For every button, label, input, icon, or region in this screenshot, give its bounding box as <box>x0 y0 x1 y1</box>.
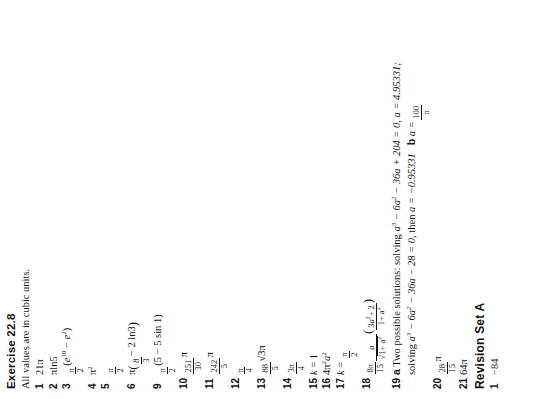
answer-number: 15 <box>308 375 320 389</box>
pi-symbol: π <box>204 352 215 357</box>
answer-body: π( 8 3 − 2 ln3) <box>126 9 150 375</box>
answer-body: 21π <box>34 9 45 375</box>
coefficient: 4 <box>321 370 332 375</box>
list-item: 18 8π 15 a √1+ a2 ( 3a2+ 2 1+ a2 ) <box>361 9 388 389</box>
answer-number: 19 <box>389 375 404 389</box>
list-item: 6 π( 8 3 − 2 ln3) <box>126 9 150 389</box>
close-paren: ) <box>360 299 375 303</box>
answer-number: 12 <box>230 375 242 389</box>
answer-body: π 2 (5 − 5 sin 1) <box>152 9 176 375</box>
answer-number: 20 <box>432 375 444 389</box>
fraction: 8 3 <box>132 357 151 364</box>
answer-text: solving <box>406 341 417 375</box>
fraction-denominator: 2 <box>116 367 125 374</box>
list-item: 1 −84 <box>489 9 501 389</box>
pi-symbol: π <box>178 352 189 357</box>
list-item: 3 π 2 (e10 − e2) <box>61 9 85 389</box>
fraction-denominator: 15 <box>376 362 385 374</box>
answer-number: 10 <box>178 375 190 389</box>
fraction: π 2 <box>106 367 125 374</box>
expression-tail: − 2 ln3 <box>126 326 137 356</box>
fraction-denominator: √1+ a2 <box>377 334 387 361</box>
fraction-denominator: 2 <box>76 367 85 374</box>
answer-body: 242 5 π <box>204 9 228 375</box>
separator: , <box>391 117 402 122</box>
exponent: 2 <box>320 352 327 355</box>
exponent: 10 <box>60 351 67 358</box>
expression-body: 5 − 5 sin 1 <box>152 318 163 362</box>
equation-1: a3 − 6a2 − 36a + 204 = 0 <box>391 123 402 232</box>
answer-number: 11 <box>204 375 216 389</box>
answer-body: a Two possible solutions: solving a3 − 6… <box>389 9 431 375</box>
numerator-tail: + 2 <box>366 305 376 316</box>
answer-number: 18 <box>361 375 373 389</box>
nested-fraction: 3a2+ 2 1+ a2 <box>367 303 387 329</box>
solution-value-1: a = 4.95331; <box>391 62 402 117</box>
list-item: 19 a Two possible solutions: solving a3 … <box>389 9 431 389</box>
exponent: 2 <box>85 366 92 369</box>
euler-base: e <box>61 358 72 363</box>
fraction-denominator: 5 <box>220 358 229 374</box>
fraction-denominator: 3 <box>142 357 151 364</box>
answer-body: k = π 2 <box>335 9 359 375</box>
list-item: 14 3π 4 <box>282 9 306 389</box>
fraction: 3π 4 <box>287 362 306 374</box>
answer-number: 3 <box>61 375 73 389</box>
fraction-denominator: 5 <box>271 363 280 375</box>
list-item: 10 251 30 π <box>178 9 202 389</box>
open-paren: ( <box>61 362 72 366</box>
answer-number: 4 <box>87 375 99 389</box>
page-title: Exercise 22.8 <box>5 9 17 389</box>
scanned-answer-page: Exercise 22.8 All values are in cubic un… <box>0 0 538 399</box>
fraction: 28 15 <box>438 363 457 375</box>
fraction: π 2 <box>340 351 359 358</box>
equals-sign: = <box>335 362 346 368</box>
open-paren: ( <box>125 365 140 369</box>
answer-number: 1 <box>489 375 501 389</box>
exponent: 2 <box>375 308 381 311</box>
answer-body: 8π 15 a √1+ a2 ( 3a2+ 2 1+ a2 ) <box>361 9 388 375</box>
list-item: 5 π 2 <box>100 9 124 389</box>
answer-body: π2 <box>87 9 98 375</box>
exponent: 2 <box>60 331 67 334</box>
exponent: 2 <box>376 337 382 340</box>
fraction: 88 5 <box>261 363 280 375</box>
section-preamble: All values are in cubic units. <box>20 9 31 389</box>
exponent: 2 <box>365 316 371 319</box>
list-item: 2 πln5 <box>48 9 60 389</box>
equation-2: a3 − 6a2 − 36a − 28 = 0 <box>406 238 417 342</box>
list-item: 1 21π <box>34 9 46 389</box>
answer-body: π 2 (e10 − e2) <box>61 9 85 375</box>
open-paren: ( <box>152 362 163 366</box>
fraction: 8π 15 <box>366 362 385 374</box>
fraction-denominator: 2 <box>350 351 359 358</box>
answer-body: k = 1 <box>308 9 319 375</box>
answer-number: 17 <box>335 375 347 389</box>
solution-value-2: a = −0.95331 <box>406 153 417 212</box>
answer-body: π 2 <box>100 9 124 375</box>
answer-number: 5 <box>100 375 112 389</box>
sub-answer-label-a: a <box>390 369 402 375</box>
fraction-denominator: 15 <box>448 363 457 375</box>
radicand-body: 1+ a <box>377 340 387 355</box>
answer-body: 88 5 √3π <box>256 9 280 375</box>
answer-number: 13 <box>256 375 268 389</box>
exponent: 2 <box>320 361 327 364</box>
answer-body: π 4 <box>230 9 254 375</box>
close-paren: ) <box>152 314 163 318</box>
page-content-column: Exercise 22.8 All values are in cubic un… <box>5 9 503 389</box>
answer-number: 16 <box>321 375 333 389</box>
numerator-term: 3a <box>366 319 376 328</box>
answer-list: 1 21π 2 πln5 3 π 2 (e10 − e2) <box>34 9 470 389</box>
answer-number: 9 <box>152 375 164 389</box>
answer-body: 4π2a2 <box>321 9 332 375</box>
list-item: 17 k = π 2 <box>335 9 359 389</box>
list-item: 21 64π <box>458 9 470 389</box>
square-root: √3 <box>256 350 267 361</box>
answer-body: −84 <box>489 9 500 375</box>
separator: , then <box>406 212 417 238</box>
fraction-denominator: 4 <box>245 367 254 374</box>
fraction: π 4 <box>236 367 255 374</box>
pi-symbol: π <box>87 370 98 375</box>
answer-number: 14 <box>282 375 294 389</box>
